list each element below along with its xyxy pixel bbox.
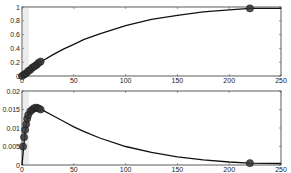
y-tick-label: 0.6 — [10, 31, 20, 38]
data-marker — [37, 58, 44, 65]
data-marker — [246, 160, 253, 167]
y-tick-label: 0.015 — [2, 106, 20, 113]
y-tick-label: 0 — [16, 162, 20, 169]
y-tick-label: 0.02 — [6, 88, 20, 95]
x-tick-label: 0 — [20, 166, 24, 172]
y-tick-label: 0.4 — [10, 45, 20, 52]
x-tick-label: 150 — [172, 77, 184, 84]
y-tick-label: 1 — [16, 4, 20, 11]
x-tick-label: 250 — [275, 77, 287, 84]
bottom-plot: 05010015020025000.0050.010.0150.02 — [2, 88, 286, 173]
top-plot: 05010015020025000.20.40.60.81 — [10, 4, 287, 85]
y-tick-label: 0.005 — [2, 143, 20, 150]
axes-frame — [22, 91, 281, 165]
x-tick-label: 150 — [172, 166, 184, 172]
x-tick-label: 50 — [70, 77, 78, 84]
y-tick-label: 0.01 — [6, 125, 20, 132]
data-marker — [20, 134, 27, 141]
x-tick-label: 200 — [223, 166, 235, 172]
curve-line — [22, 8, 281, 76]
x-tick-label: 50 — [70, 166, 78, 172]
y-tick-label: 0.2 — [10, 59, 20, 66]
shading — [23, 8, 29, 75]
figure: 05010015020025000.20.40.60.8105010015020… — [0, 0, 291, 172]
axes-frame — [22, 7, 281, 76]
data-marker — [37, 106, 44, 113]
y-tick-label: 0.8 — [10, 17, 20, 24]
x-tick-label: 250 — [275, 166, 287, 172]
x-tick-label: 100 — [120, 77, 132, 84]
curve-line — [22, 108, 281, 165]
data-marker — [19, 143, 26, 150]
data-marker — [246, 5, 253, 12]
x-tick-label: 100 — [120, 166, 132, 172]
x-tick-label: 200 — [223, 77, 235, 84]
